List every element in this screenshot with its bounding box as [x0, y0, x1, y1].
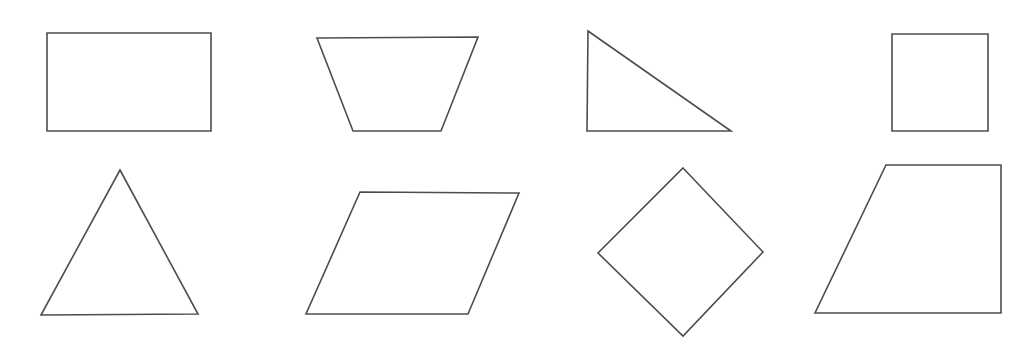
shapes-drawing-surface: [0, 0, 1036, 338]
shape-square[interactable]: [892, 34, 988, 131]
shape-rectangle[interactable]: [47, 33, 211, 131]
shapes-canvas: [0, 0, 1036, 338]
